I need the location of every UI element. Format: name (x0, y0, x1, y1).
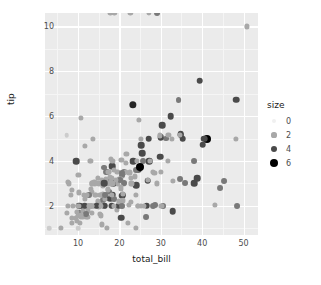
data-point (47, 226, 52, 231)
legend-items: 0246 (266, 114, 321, 170)
data-point (167, 113, 174, 120)
x-axis-title: total_bill (45, 254, 258, 264)
x-tick-label: 50 (238, 239, 248, 248)
data-point (58, 226, 63, 231)
legend-label: 0 (286, 117, 291, 126)
data-point (182, 180, 188, 186)
data-point (136, 117, 141, 122)
gridline-major-horizontal (45, 26, 258, 27)
data-point (139, 150, 146, 157)
data-point (90, 136, 95, 141)
data-point (73, 158, 80, 165)
data-point (139, 136, 144, 141)
data-point (191, 158, 197, 164)
data-point (201, 135, 208, 142)
data-point (233, 136, 238, 141)
gridline-major-horizontal (45, 71, 258, 72)
y-tick-label: 8 (49, 67, 54, 76)
legend-item[interactable]: 6 (266, 156, 321, 170)
data-point (196, 77, 203, 84)
data-point (234, 203, 240, 209)
gridline-major-vertical (202, 13, 203, 235)
data-point (233, 96, 240, 103)
data-point (133, 226, 138, 231)
y-tick-label: 6 (49, 112, 54, 121)
data-point (112, 13, 117, 16)
plot-panel (45, 13, 258, 235)
data-point (69, 192, 74, 197)
gridline-major-horizontal (45, 116, 258, 117)
data-point (129, 199, 134, 204)
data-point (119, 170, 125, 176)
gridline-minor-vertical (140, 13, 141, 235)
data-point (118, 214, 125, 221)
y-tick-label: 2 (49, 201, 54, 210)
data-point (221, 178, 227, 184)
gridline-minor-vertical (181, 13, 182, 235)
data-point (69, 220, 74, 225)
data-point (101, 180, 108, 187)
data-point (138, 142, 145, 149)
legend-item[interactable]: 4 (266, 142, 321, 156)
data-point (212, 203, 217, 208)
gridline-minor-vertical (223, 13, 224, 235)
data-point (64, 211, 69, 216)
x-tick-label: 40 (197, 239, 207, 248)
gridline-minor-horizontal (45, 94, 258, 95)
data-point (176, 97, 182, 103)
data-point (128, 175, 133, 180)
legend-key (266, 114, 282, 128)
y-tick-label: 10 (44, 22, 54, 31)
data-point (79, 115, 84, 120)
gridline-minor-vertical (57, 13, 58, 235)
data-point (124, 152, 129, 157)
data-point (136, 163, 144, 171)
legend-key (266, 128, 282, 142)
data-point (129, 101, 136, 108)
data-point (143, 214, 149, 220)
y-tick-label: 4 (49, 157, 54, 166)
data-point (83, 211, 89, 217)
y-axis-title: tip (6, 93, 16, 105)
data-point (128, 13, 133, 16)
legend-label: 4 (286, 145, 291, 154)
data-point (150, 203, 156, 209)
data-point (154, 181, 159, 186)
data-point (244, 24, 249, 29)
scatter-plot-figure: 246810 1020304050 total_bill tip size 02… (0, 0, 321, 285)
data-point (78, 220, 83, 225)
legend-dot-icon (271, 146, 278, 153)
legend: size 0246 (266, 100, 321, 170)
data-point (133, 192, 138, 197)
data-point (147, 13, 152, 16)
data-point (70, 187, 75, 192)
x-tick-label: 10 (73, 239, 83, 248)
data-point (82, 143, 87, 148)
data-point (65, 203, 70, 208)
data-point (169, 208, 176, 215)
legend-item[interactable]: 0 (266, 114, 321, 128)
data-point (126, 220, 131, 225)
data-point (165, 158, 170, 163)
legend-dot-icon (272, 119, 276, 123)
legend-title: size (267, 100, 321, 110)
data-point (119, 203, 125, 209)
data-point (154, 13, 160, 16)
data-point (102, 192, 108, 198)
legend-item[interactable]: 2 (266, 128, 321, 142)
data-point (194, 175, 201, 182)
gridline-major-vertical (244, 13, 245, 235)
data-point (123, 160, 128, 165)
legend-key (266, 156, 282, 170)
data-point (90, 210, 95, 215)
legend-label: 2 (286, 131, 291, 140)
gridline-minor-horizontal (45, 49, 258, 50)
data-point (159, 122, 166, 129)
data-point (76, 172, 81, 177)
legend-dot-icon (270, 159, 278, 167)
data-point (64, 133, 69, 138)
data-point (104, 225, 109, 230)
data-point (145, 135, 152, 142)
x-tick-label: 30 (156, 239, 166, 248)
data-point (157, 153, 164, 160)
